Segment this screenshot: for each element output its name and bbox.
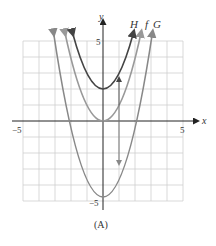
tick-y-max: 5	[96, 37, 101, 47]
tick-y-min: −5	[89, 198, 99, 208]
label-H: H	[129, 18, 139, 30]
label-G: G	[153, 18, 161, 30]
tick-x-min: −5	[12, 125, 22, 135]
y-axis-label: y	[98, 11, 104, 22]
label-f: f	[145, 18, 150, 30]
caption: (A)	[94, 219, 108, 231]
x-axis-label: x	[201, 115, 207, 126]
parabola-chart: y x −5 5 5 −5 H f G (A)	[0, 0, 216, 246]
tick-x-max: 5	[180, 125, 185, 135]
